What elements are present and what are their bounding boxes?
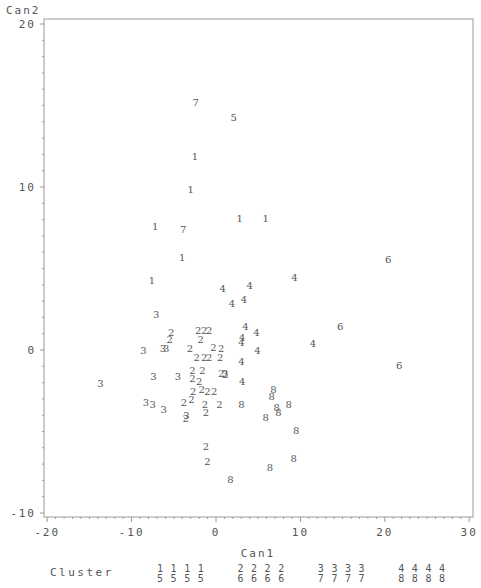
legend-symbol-bottom: 7 [331, 573, 337, 584]
data-point-cluster-2: 2 [216, 399, 222, 410]
x-tick-label: 20 [376, 526, 393, 539]
plot-frame [44, 19, 473, 517]
legend-symbol-bottom: 5 [157, 573, 163, 584]
data-point-cluster-4: 4 [254, 345, 260, 356]
data-point-cluster-2: 2 [203, 407, 209, 418]
legend-symbol-bottom: 5 [184, 573, 190, 584]
data-point-cluster-8: 8 [238, 399, 244, 410]
legend-symbol-bottom: 6 [265, 573, 271, 584]
data-point-cluster-2: 2 [211, 386, 217, 397]
y-tick-label: 0 [27, 344, 36, 357]
legend-symbol-bottom: 7 [359, 573, 365, 584]
data-point-cluster-3: 3 [140, 345, 146, 356]
data-point-cluster-2: 2 [217, 352, 223, 363]
legend-symbol-bottom: 6 [251, 573, 257, 584]
x-tick-label: 30 [461, 526, 478, 539]
data-point-cluster-2: 2 [203, 441, 209, 452]
legend-symbol-bottom: 8 [425, 573, 431, 584]
legend-symbol-bottom: 5 [171, 573, 177, 584]
legend-symbol-bottom: 5 [198, 573, 204, 584]
data-point-cluster-2: 2 [188, 394, 194, 405]
x-axis-label: Can1 [241, 547, 276, 560]
data-point-cluster-4: 4 [310, 338, 316, 349]
data-point-cluster-4: 4 [220, 283, 226, 294]
data-point-cluster-7: 7 [180, 224, 186, 235]
data-point-cluster-2: 2 [187, 343, 193, 354]
data-point-cluster-3: 3 [163, 343, 169, 354]
legend-symbol-bottom: 8 [412, 573, 418, 584]
legend-symbol-bottom: 7 [318, 573, 324, 584]
data-point-cluster-6: 6 [337, 321, 343, 332]
data-point-cluster-1: 1 [187, 184, 193, 195]
legend-symbol-bottom: 8 [439, 573, 445, 584]
data-point-cluster-1: 1 [179, 252, 185, 263]
data-point-cluster-4: 4 [247, 280, 253, 291]
data-point-cluster-4: 4 [238, 337, 244, 348]
x-tick-label: -10 [119, 526, 145, 539]
y-tick-label: -10 [10, 507, 36, 520]
data-point-cluster-6: 6 [385, 254, 391, 265]
x-tick-label: 10 [292, 526, 309, 539]
data-point-cluster-3: 3 [222, 368, 228, 379]
data-point-cluster-2: 2 [206, 352, 212, 363]
y-axis: -1001020 [10, 18, 44, 520]
data-point-cluster-5: 5 [231, 112, 237, 123]
data-point-cluster-3: 3 [150, 399, 156, 410]
data-point-cluster-4: 4 [229, 298, 235, 309]
data-point-cluster-3: 3 [160, 404, 166, 415]
data-point-cluster-3: 3 [183, 410, 189, 421]
data-point-cluster-8: 8 [290, 453, 296, 464]
data-point-cluster-3: 3 [150, 371, 156, 382]
data-point-cluster-6: 6 [396, 360, 402, 371]
data-points: 1111111222222222222222222222222222222233… [97, 97, 402, 485]
data-point-cluster-2: 2 [189, 373, 195, 384]
data-point-cluster-4: 4 [291, 272, 297, 283]
data-point-cluster-8: 8 [269, 391, 275, 402]
data-point-cluster-2: 2 [206, 325, 212, 336]
data-point-cluster-3: 3 [153, 309, 159, 320]
data-point-cluster-8: 8 [227, 474, 233, 485]
data-point-cluster-1: 1 [149, 275, 155, 286]
data-point-cluster-8: 8 [293, 425, 299, 436]
data-point-cluster-2: 2 [204, 456, 210, 467]
data-point-cluster-3: 3 [143, 397, 149, 408]
data-point-cluster-2: 2 [181, 397, 187, 408]
data-point-cluster-8: 8 [275, 407, 281, 418]
data-point-cluster-8: 8 [285, 399, 291, 410]
x-tick-label: 0 [212, 526, 221, 539]
y-axis-label: Can2 [6, 4, 41, 17]
data-point-cluster-4: 4 [238, 356, 244, 367]
x-axis: -20-100102030 [34, 517, 478, 539]
data-point-cluster-2: 2 [204, 386, 210, 397]
data-point-cluster-2: 2 [193, 352, 199, 363]
data-point-cluster-4: 4 [239, 376, 245, 387]
data-point-cluster-8: 8 [267, 462, 273, 473]
data-point-cluster-2: 2 [199, 365, 205, 376]
legend-symbol-bottom: 8 [398, 573, 404, 584]
legend-symbol-bottom: 7 [345, 573, 351, 584]
data-point-cluster-4: 4 [241, 294, 247, 305]
data-point-cluster-1: 1 [236, 213, 242, 224]
data-point-cluster-4: 4 [242, 321, 248, 332]
legend-symbol-bottom: 6 [237, 573, 243, 584]
y-tick-label: 20 [19, 18, 36, 31]
y-tick-label: 10 [19, 181, 36, 194]
data-point-cluster-1: 1 [192, 151, 198, 162]
data-point-cluster-8: 8 [263, 412, 269, 423]
data-point-cluster-4: 4 [253, 327, 259, 338]
data-point-cluster-7: 7 [193, 97, 199, 108]
scatter-plot: Can2 -1001020 -20-100102030 Can1 1111111… [0, 0, 481, 588]
data-point-cluster-3: 3 [175, 371, 181, 382]
legend-title: Cluster [50, 566, 114, 579]
data-point-cluster-2: 2 [198, 334, 204, 345]
data-point-cluster-3: 3 [97, 378, 103, 389]
x-tick-label: -20 [34, 526, 60, 539]
data-point-cluster-1: 1 [263, 213, 269, 224]
data-point-cluster-1: 1 [152, 221, 158, 232]
legend-symbol-bottom: 6 [278, 573, 284, 584]
legend: Cluster 15151515262626263737373748484848 [50, 563, 445, 584]
